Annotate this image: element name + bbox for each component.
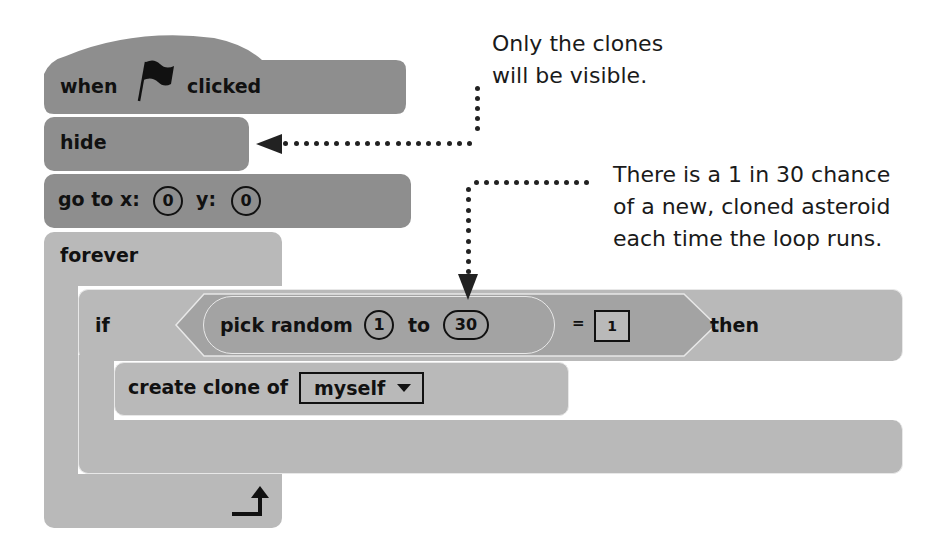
leader-dot [385, 141, 390, 146]
when-label: when [60, 77, 118, 96]
leader-dot [466, 259, 471, 264]
leader-dot [564, 180, 569, 185]
leader-dot [283, 141, 288, 146]
leader-dot [475, 96, 480, 101]
leader-dot [484, 180, 489, 185]
annotation-line: each time the loop runs. [613, 223, 890, 255]
leader-dot [475, 86, 480, 91]
leader-dot [475, 116, 480, 121]
leader-dot [396, 141, 401, 146]
create-clone-label: create clone of [128, 378, 288, 397]
leader-dot [334, 141, 339, 146]
y-label: y: [196, 190, 216, 209]
annotation-line: will be visible. [492, 60, 663, 92]
leader-dot [294, 141, 299, 146]
leader-dot [324, 141, 329, 146]
if-label: if [95, 316, 110, 335]
annotation-clones-visible: Only the clones will be visible. [492, 28, 663, 92]
random-to-input[interactable]: 30 [443, 310, 489, 340]
loop-arrow-icon [232, 484, 272, 520]
leader-dot [544, 180, 549, 185]
leader-dot [345, 141, 350, 146]
leader-dot [457, 141, 462, 146]
leader-dot [436, 141, 441, 146]
annotation-clone-chance: There is a 1 in 30 chance of a new, clon… [613, 159, 890, 255]
y-input[interactable]: 0 [231, 186, 261, 216]
leader-dot [584, 180, 589, 185]
clone-target-value: myself [314, 379, 385, 398]
leader-dot [524, 180, 529, 185]
leader-dot [466, 218, 471, 223]
leader-dot [466, 239, 471, 244]
leader-dot [375, 141, 380, 146]
leader-dot [314, 141, 319, 146]
leader-dot [534, 180, 539, 185]
when-flag-clicked-block[interactable] [44, 30, 406, 114]
if-block-bottom [78, 420, 903, 474]
compare-value-input[interactable]: 1 [594, 310, 630, 342]
leader-dot [467, 141, 472, 146]
leader-dot [426, 141, 431, 146]
leader-dot [475, 126, 480, 131]
leader-dot [447, 141, 452, 146]
dropdown-triangle-icon [397, 384, 411, 392]
go-to-x-label: go to x: [58, 190, 140, 209]
pick-random-label: pick random [220, 316, 353, 335]
leader-dot [466, 197, 471, 202]
leader-dot [365, 141, 370, 146]
leader-dot [416, 141, 421, 146]
forever-label: forever [60, 246, 138, 265]
annotation-line: Only the clones [492, 28, 663, 60]
leader-dot [355, 141, 360, 146]
leader-dot [466, 249, 471, 254]
annotation-line: of a new, cloned asteroid [613, 191, 890, 223]
to-label: to [408, 316, 430, 335]
leader-dot [466, 208, 471, 213]
leader-dot [574, 180, 579, 185]
clicked-label: clicked [187, 77, 261, 96]
leader-dot [466, 187, 471, 192]
hide-label: hide [60, 133, 107, 152]
then-label: then [710, 316, 759, 335]
leader-dot [304, 141, 309, 146]
equals-sign: = [572, 316, 585, 331]
leader-dot [514, 180, 519, 185]
clone-target-dropdown[interactable]: myself [299, 372, 424, 404]
annotation-line: There is a 1 in 30 chance [613, 159, 890, 191]
leader-dot [504, 180, 509, 185]
green-flag-icon [136, 58, 176, 102]
leader-dot [474, 180, 479, 185]
arrowhead-down-icon [458, 274, 478, 300]
x-input[interactable]: 0 [153, 186, 183, 216]
leader-dot [406, 141, 411, 146]
leader-dot [494, 180, 499, 185]
forever-block-arm [44, 280, 78, 480]
leader-dot [466, 228, 471, 233]
if-block-arm [78, 355, 114, 425]
leader-dot [554, 180, 559, 185]
random-from-input[interactable]: 1 [364, 310, 394, 340]
leader-dot [475, 106, 480, 111]
arrowhead-left-icon [256, 134, 282, 154]
